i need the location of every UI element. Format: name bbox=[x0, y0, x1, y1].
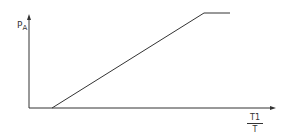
series-line bbox=[52, 13, 230, 108]
y-axis bbox=[27, 14, 31, 108]
y-axis-label: PA bbox=[17, 20, 27, 30]
x-axis-label-numerator: T1 bbox=[247, 113, 263, 124]
x-axis-label: T1 T bbox=[247, 113, 263, 134]
y-axis-arrow-icon bbox=[27, 14, 31, 20]
x-axis-label-denominator: T bbox=[247, 124, 263, 134]
x-axis-arrow-icon bbox=[270, 106, 276, 110]
x-axis bbox=[29, 106, 276, 110]
y-axis-label-subscript: A bbox=[22, 24, 27, 32]
chart-canvas bbox=[0, 0, 285, 136]
